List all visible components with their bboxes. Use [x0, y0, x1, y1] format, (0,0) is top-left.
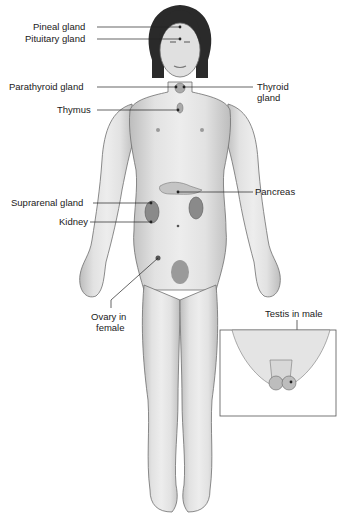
label-suprarenal-gland: Suprarenal gland [11, 197, 83, 208]
left-arm [80, 104, 134, 297]
label-ovary-line1: Ovary in [91, 311, 126, 322]
right-arm [226, 104, 280, 297]
label-kidney: Kidney [59, 216, 88, 227]
label-pineal-gland: Pineal gland [33, 21, 85, 32]
label-thymus: Thymus [57, 104, 91, 115]
label-testis-in-male: Testis in male [265, 308, 323, 319]
label-pituitary-gland: Pituitary gland [25, 33, 85, 44]
head [160, 23, 200, 77]
endocrine-figure [0, 0, 339, 521]
kidney-right [189, 197, 203, 219]
label-thyroid-gland-line2: gland [257, 92, 280, 103]
kidney-left [145, 201, 159, 223]
label-pancreas: Pancreas [255, 186, 295, 197]
label-parathyroid-gland: Parathyroid gland [9, 81, 83, 92]
pubic-area [171, 260, 189, 284]
label-ovary-line2: female [96, 322, 125, 333]
right-leg [180, 285, 218, 512]
left-leg [142, 285, 180, 512]
label-thyroid-gland-line1: Thyroid [257, 81, 289, 92]
